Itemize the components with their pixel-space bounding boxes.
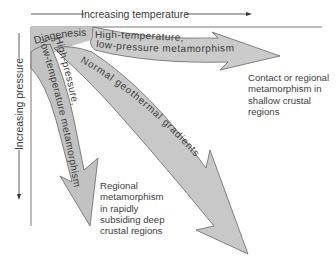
arrow-normal-geothermal-label: Normal geothermal gradients [79,54,202,159]
metamorphism-diagram: Diagenesis High-temperature, low-pressur… [0,0,336,262]
arrowhead-right-icon [246,12,252,16]
pressure-axis-label: Increasing pressure [13,58,25,150]
deep-regions-note: Regional metamorphism in rapidly subsidi… [100,180,165,236]
arrowhead-down-icon [17,194,21,200]
temperature-axis-label: Increasing temperature [81,8,189,20]
shallow-regions-note: Contact or regional metamorphism in shal… [248,72,329,117]
